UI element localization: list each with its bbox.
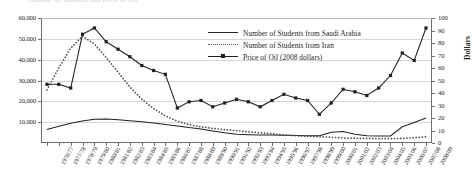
legend-label-iran: Number of Students from Iran [243,41,334,50]
x-tick-label: 2004/05 [391,146,406,166]
gridline [42,101,431,102]
tick-mark [38,122,41,123]
x-tick-label: 2000/01 [344,146,359,166]
legend-item-oil: Price of Oil (2008 dollars) [208,51,426,63]
tick-mark [426,143,427,146]
y-tick-right: 60 [438,64,460,71]
legend-key-dotted-icon [208,40,238,50]
tick-mark [379,143,380,146]
x-tick-label: 1992/93 [249,146,264,166]
legend-key-marked-icon [208,52,238,62]
tick-mark [59,143,60,146]
x-tick-label: 2003/04 [379,146,394,166]
x-tick-label: 1996/97 [297,146,312,166]
chart-title: Number of Students and Price of Oil [28,0,288,5]
tick-mark [432,56,435,57]
tick-mark [402,143,403,146]
x-tick-label: 1989/90 [214,146,229,166]
x-tick-label: 1991/92 [237,146,252,166]
x-tick-label: 1990/91 [225,146,240,166]
x-tick-label: 1981/82 [119,146,134,166]
tick-mark [260,143,261,146]
y-tick-left: 60,000 [2,14,36,21]
x-tick-label: 2001/02 [356,146,371,166]
tick-mark [272,143,273,146]
y-tick-right: 10 [438,127,460,134]
tick-mark [47,143,48,146]
tick-mark [414,143,415,146]
chart-figure: Number of Students and Price of Oil Numb… [0,0,472,186]
y-tick-right: 50 [438,77,460,84]
x-tick-label: 1976/77 [60,146,75,166]
y-tick-right: 90 [438,27,460,34]
tick-mark [432,68,435,69]
tick-mark [130,143,131,146]
x-tick-label: 1977/78 [71,146,86,166]
x-tick-label: 1982/83 [131,146,146,166]
tick-mark [432,81,435,82]
tick-mark [106,143,107,146]
tick-mark [177,143,178,146]
legend-item-saudi: Number of Students from Saudi Arabia [208,27,426,39]
x-tick-label: 1995/96 [285,146,300,166]
y-axis-right-title: Dollars [463,36,472,60]
y-tick-left: 40,000 [2,56,36,63]
y-tick-right: 20 [438,114,460,121]
tick-mark [432,106,435,107]
x-tick-label: 1985/86 [166,146,181,166]
tick-mark [165,143,166,146]
x-tick-label: 1986/87 [178,146,193,166]
tick-mark [83,143,84,146]
y-tick-left: 10,000 [2,118,36,125]
x-tick-label: 2008/09 [439,146,454,166]
x-tick-label: 1988/89 [202,146,217,166]
gridline [42,81,431,82]
tick-mark [38,81,41,82]
tick-mark [343,143,344,146]
tick-mark [38,18,41,19]
x-tick-label: 2007/08 [427,146,442,166]
tick-mark [367,143,368,146]
tick-mark [189,143,190,146]
legend-key-solid-icon [208,28,238,38]
tick-mark [38,39,41,40]
x-tick-label: 1983/84 [143,146,158,166]
tick-mark [308,143,309,146]
y-tick-right: 40 [438,89,460,96]
x-tick-label: 1999/00 [332,146,347,166]
tick-mark [38,60,41,61]
y-tick-right: 100 [438,14,460,21]
x-tick-label: 2005/06 [403,146,418,166]
tick-mark [296,143,297,146]
tick-mark [432,31,435,32]
tick-mark [225,143,226,146]
tick-mark [284,143,285,146]
tick-mark [432,93,435,94]
y-tick-right: 0 [438,139,460,146]
x-tick-label: 1994/95 [273,146,288,166]
x-tick-label: 1979/80 [95,146,110,166]
legend-label-saudi: Number of Students from Saudi Arabia [243,29,361,38]
x-tick-label: 1997/98 [308,146,323,166]
y-tick-right: 70 [438,52,460,59]
tick-mark [331,143,332,146]
tick-mark [38,101,41,102]
x-tick-label: 1984/85 [154,146,169,166]
tick-mark [94,143,95,146]
tick-mark [432,118,435,119]
tick-mark [154,143,155,146]
tick-mark [237,143,238,146]
y-tick-left: 50,000 [2,35,36,42]
y-tick-right: 80 [438,39,460,46]
y-tick-right: 30 [438,102,460,109]
gridline [42,122,431,123]
tick-mark [390,143,391,146]
tick-mark [432,131,435,132]
tick-mark [248,143,249,146]
tick-mark [432,43,435,44]
y-tick-left: 30,000 [2,77,36,84]
tick-mark [432,143,435,144]
x-tick-label: 1998/99 [320,146,335,166]
tick-mark [319,143,320,146]
x-tick-label: 2002/03 [368,146,383,166]
